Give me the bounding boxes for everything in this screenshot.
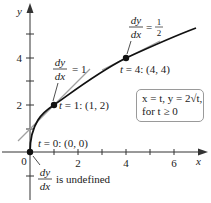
leader-line-t4 <box>127 41 131 54</box>
svg-text:= 1: = 1 <box>72 63 86 75</box>
svg-text:dx: dx <box>40 180 51 192</box>
svg-text:dy: dy <box>131 14 142 26</box>
point-t4 <box>123 55 129 61</box>
equation-line-2: for t ≥ 0 <box>142 105 203 118</box>
svg-text:2: 2 <box>157 28 162 38</box>
equation-box: x = t, y = 2√t, for t ≥ 0 <box>136 89 204 122</box>
x-tick-label-4: 4 <box>123 157 129 169</box>
svg-text:=: = <box>146 21 152 33</box>
slope-annotation-t0: dy dx is undefined <box>33 156 111 192</box>
y-tick-label-2: 2 <box>17 99 23 111</box>
point-label-t0: t = 0: (0, 0) <box>38 137 88 150</box>
svg-text:is undefined: is undefined <box>56 173 111 185</box>
svg-text:dy: dy <box>55 56 66 68</box>
equation-line-1: x = t, y = 2√t, <box>142 92 203 105</box>
leader-line-t1 <box>53 83 58 101</box>
point-t0 <box>27 149 33 155</box>
y-axis-label: y <box>16 5 22 17</box>
x-tick-label-2: 2 <box>75 157 81 169</box>
x-tick-label-6: 6 <box>171 157 177 169</box>
point-t1 <box>51 102 57 108</box>
x-axis-label: x <box>195 155 201 167</box>
svg-text:dx: dx <box>131 28 142 40</box>
svg-text:1: 1 <box>157 17 162 27</box>
point-label-t4: t = 4: (4, 4) <box>120 63 170 76</box>
svg-text:dy: dy <box>40 166 51 178</box>
point-label-t1: t = 1: (1, 2) <box>59 99 109 112</box>
origin-label: 0 <box>21 155 27 167</box>
y-tick-label-4: 4 <box>17 52 23 64</box>
y-axis-arrow-icon <box>27 3 34 13</box>
svg-text:dx: dx <box>55 70 66 82</box>
leader-line-t0 <box>33 156 40 165</box>
